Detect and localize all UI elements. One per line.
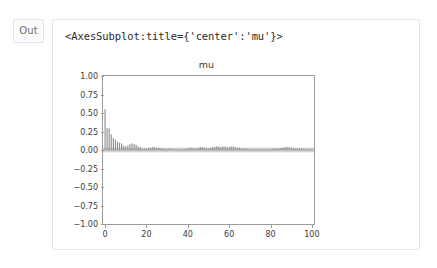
bar bbox=[152, 147, 153, 150]
bar bbox=[307, 149, 308, 150]
y-tick-mark bbox=[101, 150, 104, 151]
x-tick-mark bbox=[146, 225, 147, 228]
bar bbox=[177, 149, 178, 150]
x-tick-mark bbox=[188, 225, 189, 228]
bar bbox=[187, 149, 188, 150]
bar bbox=[202, 147, 203, 150]
y-tick-label: 0.75 bbox=[58, 90, 98, 99]
bar bbox=[253, 150, 254, 151]
bar bbox=[148, 148, 149, 150]
x-tick-label: 0 bbox=[90, 230, 120, 239]
plot-area bbox=[102, 75, 315, 225]
bar bbox=[220, 147, 221, 150]
y-tick-label: −0.50 bbox=[58, 183, 98, 192]
bar bbox=[169, 149, 170, 150]
bar bbox=[241, 149, 242, 150]
y-tick-label: 0.50 bbox=[58, 109, 98, 118]
bar bbox=[311, 149, 312, 150]
bar bbox=[249, 149, 250, 150]
x-tick-label: 40 bbox=[173, 230, 203, 239]
output-area: <AxesSubplot:title={'center':'mu'}> mu 1… bbox=[52, 19, 420, 250]
bar bbox=[216, 146, 217, 150]
y-tick-mark bbox=[101, 206, 104, 207]
bar bbox=[127, 146, 128, 150]
bar bbox=[142, 149, 143, 150]
bar bbox=[183, 149, 184, 150]
bar bbox=[179, 150, 180, 151]
y-axis-tick-labels: 1.000.750.500.250.00−0.25−0.50−0.75−1.00 bbox=[57, 75, 98, 225]
bar bbox=[264, 150, 265, 151]
bar bbox=[210, 148, 211, 150]
bar bbox=[214, 147, 215, 150]
bar bbox=[117, 142, 118, 150]
bar bbox=[144, 149, 145, 150]
bar bbox=[212, 147, 213, 150]
y-tick-mark bbox=[101, 95, 104, 96]
bar bbox=[198, 148, 199, 150]
bar bbox=[297, 149, 298, 150]
bar bbox=[287, 147, 288, 150]
bar bbox=[171, 149, 172, 150]
y-tick-label: 0.25 bbox=[58, 127, 98, 136]
bar bbox=[268, 149, 269, 150]
bar bbox=[272, 149, 273, 150]
x-tick-label: 60 bbox=[214, 230, 244, 239]
bar bbox=[191, 148, 192, 150]
bar bbox=[107, 128, 108, 150]
bar bbox=[280, 148, 281, 150]
y-tick-mark bbox=[101, 187, 104, 188]
bar bbox=[309, 149, 310, 150]
bar bbox=[105, 109, 106, 150]
output-prompt-label: Out bbox=[13, 19, 44, 43]
bar bbox=[224, 146, 225, 150]
bar bbox=[119, 143, 120, 150]
bar bbox=[276, 149, 277, 150]
bar bbox=[237, 148, 238, 150]
bar bbox=[243, 149, 244, 150]
x-tick-mark bbox=[312, 225, 313, 228]
bar bbox=[185, 149, 186, 150]
bar bbox=[231, 146, 232, 150]
x-tick-mark bbox=[105, 225, 106, 228]
bar bbox=[138, 146, 139, 150]
bar bbox=[299, 149, 300, 150]
bar bbox=[270, 149, 271, 150]
chart-title: mu bbox=[99, 59, 314, 70]
bar bbox=[229, 147, 230, 150]
bar bbox=[189, 148, 190, 150]
bar bbox=[204, 148, 205, 150]
bar bbox=[247, 149, 248, 150]
bar bbox=[162, 149, 163, 150]
bar bbox=[175, 149, 176, 150]
bar bbox=[262, 149, 263, 150]
x-tick-label: 80 bbox=[256, 230, 286, 239]
bar bbox=[284, 147, 285, 150]
y-tick-label: 1.00 bbox=[58, 72, 98, 81]
bar bbox=[173, 149, 174, 150]
notebook-output-cell: Out <AxesSubplot:title={'center':'mu'}> … bbox=[0, 0, 437, 268]
bar bbox=[278, 149, 279, 150]
y-tick-label: −0.75 bbox=[58, 201, 98, 210]
bar bbox=[111, 134, 112, 150]
bar bbox=[136, 145, 137, 150]
bar bbox=[146, 149, 147, 150]
bar bbox=[123, 146, 124, 150]
bar bbox=[165, 149, 166, 150]
bar bbox=[167, 149, 168, 150]
bar bbox=[131, 143, 132, 150]
bar bbox=[227, 147, 228, 150]
bar bbox=[150, 148, 151, 150]
bar bbox=[305, 149, 306, 150]
y-tick-label: −1.00 bbox=[58, 220, 98, 229]
bar bbox=[239, 148, 240, 150]
bar-series bbox=[105, 109, 313, 150]
bar bbox=[245, 149, 246, 150]
bar bbox=[181, 149, 182, 150]
bar bbox=[193, 149, 194, 150]
axessubplot-repr-text: <AxesSubplot:title={'center':'mu'}> bbox=[65, 30, 283, 42]
bar bbox=[266, 149, 267, 150]
bar bbox=[282, 148, 283, 150]
bar bbox=[274, 149, 275, 150]
y-tick-label: 0.00 bbox=[58, 146, 98, 155]
bar bbox=[222, 146, 223, 150]
